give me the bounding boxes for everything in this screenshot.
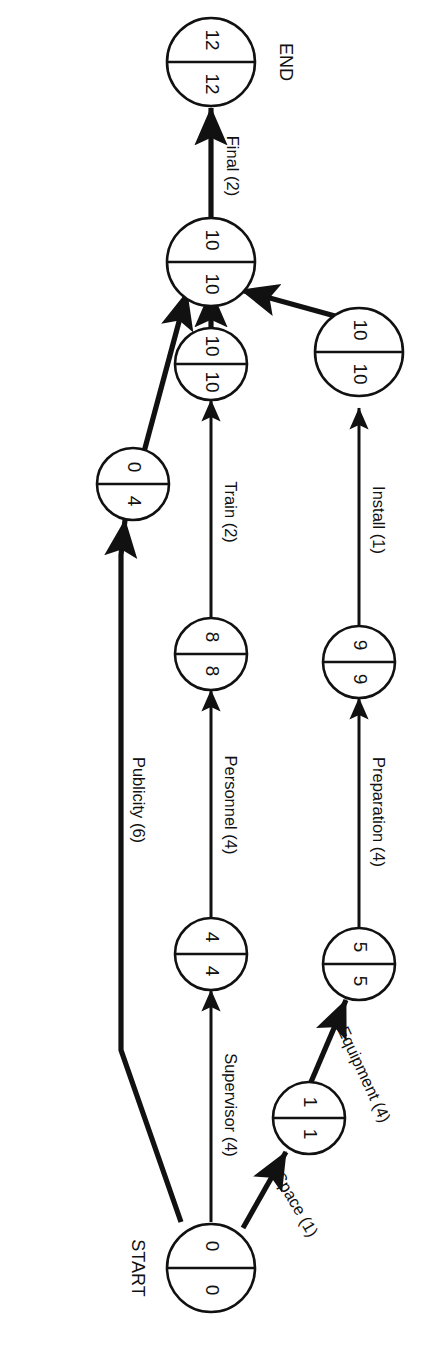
node-supervisor-right: 4 xyxy=(202,966,223,977)
node-equipment[interactable]: 5 5 xyxy=(323,928,395,1000)
node-personnel-left: 8 xyxy=(202,632,223,643)
node-install-left: 10 xyxy=(350,319,371,340)
node-prep-left: 9 xyxy=(350,640,371,651)
node-end-caption: END xyxy=(276,43,296,81)
edge-label-publicity: Publicity (6) xyxy=(130,757,148,843)
node-space-right: 1 xyxy=(300,1129,321,1140)
edge-label-train: Train (2) xyxy=(222,481,240,543)
node-prep-right: 9 xyxy=(350,674,371,685)
edge-final: Final (2) xyxy=(211,108,242,218)
node-supervisor[interactable]: 4 4 xyxy=(175,918,247,990)
edge-space: Space (1) xyxy=(243,1152,322,1240)
node-merge-left: 10 xyxy=(202,229,223,250)
node-install[interactable]: 10 10 xyxy=(315,308,403,396)
node-end[interactable]: 12 12 END xyxy=(167,18,296,106)
edge-label-supervisor: Supervisor (4) xyxy=(222,1053,240,1157)
node-train-right: 10 xyxy=(202,371,223,392)
node-personnel-right: 8 xyxy=(202,666,223,677)
edge-train: Train (2) xyxy=(211,400,240,618)
edge-personnel: Personnel (4) xyxy=(211,690,240,918)
edge-label-final: Final (2) xyxy=(224,136,242,197)
node-train[interactable]: 10 10 xyxy=(175,328,247,400)
node-publicity-right: 4 xyxy=(124,496,145,507)
node-prep[interactable]: 9 9 xyxy=(323,626,395,698)
edge-install-merge xyxy=(241,290,335,316)
node-start-caption: START xyxy=(128,1239,148,1296)
node-merge[interactable]: 10 10 xyxy=(167,218,255,306)
edge-supervisor: Supervisor (4) xyxy=(211,990,240,1222)
node-merge-right: 10 xyxy=(202,273,223,294)
node-end-right: 12 xyxy=(202,73,223,94)
edge-label-preparation: Preparation (4) xyxy=(370,757,388,867)
node-start-left: 0 xyxy=(202,1241,223,1252)
network-svg: Publicity (6) Supervisor (4) Personnel (… xyxy=(0,0,421,1355)
node-supervisor-left: 4 xyxy=(202,932,223,943)
edge-preparation: Preparation (4) xyxy=(359,698,388,928)
edge-install: Install (1) xyxy=(359,408,388,626)
node-equipment-left: 5 xyxy=(350,942,371,953)
node-train-left: 10 xyxy=(202,335,223,356)
node-space-left: 1 xyxy=(300,1097,321,1108)
edge-label-install: Install (1) xyxy=(370,486,388,554)
node-space[interactable]: 1 1 xyxy=(273,1082,345,1154)
node-start-right: 0 xyxy=(202,1285,223,1296)
node-start[interactable]: 0 0 START xyxy=(128,1224,255,1312)
edge-label-personnel: Personnel (4) xyxy=(222,755,240,854)
node-end-left: 12 xyxy=(202,29,223,50)
node-personnel[interactable]: 8 8 xyxy=(175,618,247,690)
edge-label-space: Space (1) xyxy=(271,1169,322,1240)
node-publicity-left: 0 xyxy=(124,462,145,473)
node-equipment-right: 5 xyxy=(350,976,371,987)
edge-publicity: Publicity (6) xyxy=(121,520,181,1222)
node-install-right: 10 xyxy=(350,363,371,384)
cpm-network-diagram-page: Publicity (6) Supervisor (4) Personnel (… xyxy=(0,0,421,1355)
node-publicity[interactable]: 0 4 xyxy=(97,448,169,520)
network-canvas: Publicity (6) Supervisor (4) Personnel (… xyxy=(0,0,421,1355)
